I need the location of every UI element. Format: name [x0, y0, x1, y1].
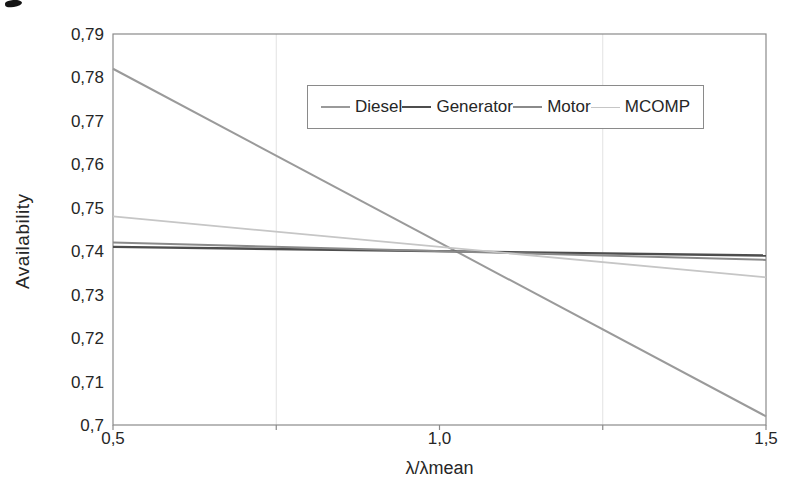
- y-tick-label: 0,73: [71, 286, 104, 305]
- x-axis-title: λ/λmean: [113, 458, 766, 479]
- y-tick-label: 0,71: [71, 373, 104, 392]
- y-tick-label: 0,77: [71, 112, 104, 131]
- legend-item-motor: Motor: [513, 97, 590, 117]
- legend-item-mcomp: MCOMP: [591, 97, 690, 117]
- x-tick-label: 1,5: [754, 429, 778, 448]
- legend-label: MCOMP: [625, 97, 690, 117]
- legend-line-swatch: [513, 106, 542, 108]
- y-tick-label: 0,79: [71, 25, 104, 44]
- series-line-motor: [113, 243, 766, 260]
- y-tick-label: 0,72: [71, 329, 104, 348]
- x-tick-label: 0,5: [101, 429, 125, 448]
- legend-line-swatch: [321, 106, 350, 108]
- legend-item-generator: Generator: [402, 97, 513, 117]
- y-tick-label: 0,7: [80, 416, 104, 435]
- y-tick-label: 0,78: [71, 68, 104, 87]
- x-tick-label: 1,0: [428, 429, 452, 448]
- availability-line-chart: Availability 0,51,01,50,70,710,720,730,7…: [0, 0, 802, 499]
- y-tick-label: 0,74: [71, 242, 104, 261]
- legend-line-swatch: [591, 107, 620, 108]
- legend-label: Diesel: [355, 97, 402, 117]
- legend-item-diesel: Diesel: [321, 97, 402, 117]
- y-tick-label: 0,76: [71, 155, 104, 174]
- legend-line-swatch: [402, 106, 431, 108]
- legend: DieselGeneratorMotorMCOMP: [307, 85, 704, 129]
- legend-label: Generator: [436, 97, 513, 117]
- y-tick-label: 0,75: [71, 199, 104, 218]
- plot-area: 0,51,01,50,70,710,720,730,740,750,760,77…: [0, 0, 802, 499]
- legend-label: Motor: [547, 97, 590, 117]
- series-line-mcomp: [113, 216, 766, 277]
